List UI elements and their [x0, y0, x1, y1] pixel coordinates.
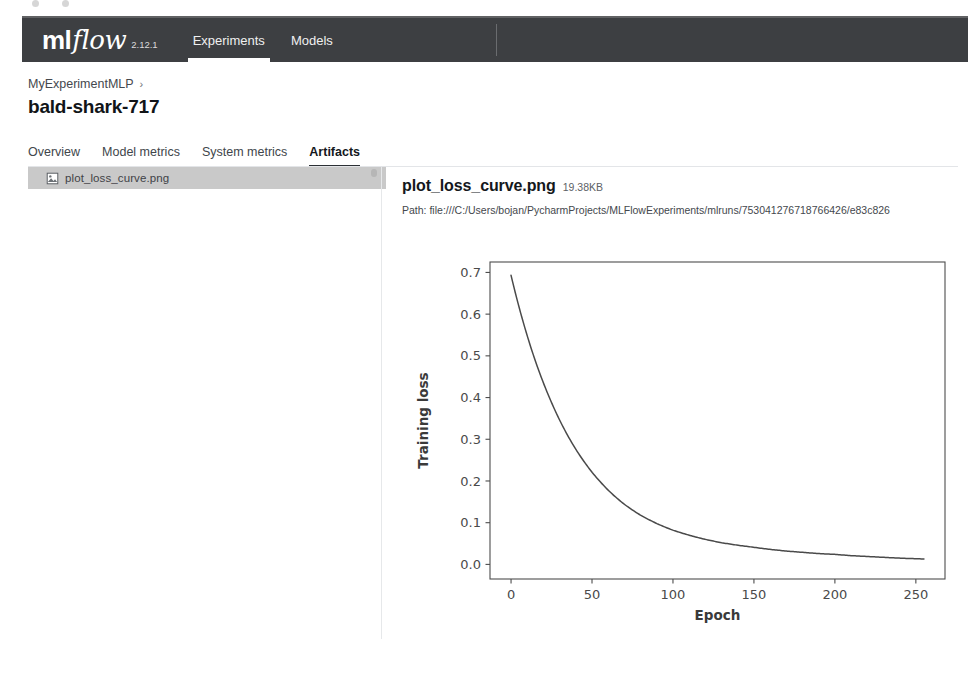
y-axis-tick-label: 0.3	[460, 432, 481, 447]
tab-system-metrics[interactable]: System metrics	[202, 145, 300, 167]
image-file-icon	[46, 172, 59, 185]
x-axis-tick-label: 200	[822, 587, 847, 602]
nav-link-experiments[interactable]: Experiments	[180, 18, 278, 62]
y-axis-title: Training loss	[415, 372, 431, 468]
preview-path-label: Path:	[402, 204, 427, 216]
x-axis-tick-label: 50	[584, 587, 601, 602]
logo-ml-text: ml	[42, 18, 71, 62]
tab-overview-label: Overview	[28, 145, 80, 159]
list-item[interactable]: plot_loss_curve.png	[28, 167, 386, 189]
nav-link-models[interactable]: Models	[278, 18, 346, 62]
y-axis-tick-label: 0.2	[460, 474, 481, 489]
y-axis-tick-label: 0.5	[460, 348, 481, 363]
y-axis-tick-label: 0.7	[460, 265, 481, 280]
list-item-label: plot_loss_curve.png	[65, 172, 169, 184]
x-axis-tick-label: 0	[507, 587, 515, 602]
x-axis-tick-label: 250	[903, 587, 928, 602]
navbar-links: Experiments Models	[180, 18, 346, 62]
tab-model-metrics[interactable]: Model metrics	[102, 145, 193, 167]
nav-link-models-label: Models	[291, 33, 333, 48]
logo-flow-text: flow	[72, 18, 126, 62]
x-axis-tick-label: 100	[661, 587, 686, 602]
preview-header: plot_loss_curve.png 19.38KB	[402, 177, 603, 195]
version-label: 2.12.1	[131, 39, 157, 50]
pane-divider	[381, 167, 382, 639]
training-loss-line-chart: 0.00.10.20.30.40.50.60.7050100150200250E…	[402, 255, 958, 623]
navbar-spacer	[497, 18, 968, 62]
window-dot-right	[62, 0, 69, 7]
tab-bar: Overview Model metrics System metrics Ar…	[28, 145, 958, 167]
tab-system-metrics-label: System metrics	[202, 145, 287, 159]
y-axis-tick-label: 0.4	[460, 390, 481, 405]
top-navbar: ml flow 2.12.1 Experiments Models	[22, 18, 968, 62]
plot-frame	[490, 262, 945, 579]
preview-path-value: file:///C:/Users/bojan/PycharmProjects/M…	[429, 204, 890, 216]
breadcrumb-parent-link[interactable]: MyExperimentMLP	[28, 77, 134, 91]
tab-overview[interactable]: Overview	[28, 145, 93, 167]
x-axis-title: Epoch	[695, 607, 741, 623]
x-axis-tick-label: 150	[742, 587, 767, 602]
series-line-training-loss	[511, 275, 924, 559]
nav-link-experiments-label: Experiments	[193, 33, 265, 48]
y-axis-tick-label: 0.6	[460, 307, 481, 322]
preview-filename: plot_loss_curve.png	[402, 177, 556, 195]
preview-path: Path: file:///C:/Users/bojan/PycharmProj…	[402, 204, 890, 216]
artifact-browser: plot_loss_curve.png plot_loss_curve.png …	[28, 167, 958, 639]
breadcrumb: MyExperimentMLP ›	[28, 77, 143, 91]
mlflow-logo[interactable]: ml flow 2.12.1	[22, 18, 172, 62]
y-axis-tick-label: 0.0	[460, 557, 481, 572]
y-axis-tick-label: 0.1	[460, 515, 481, 530]
loss-curve-chart: 0.00.10.20.30.40.50.60.7050100150200250E…	[402, 255, 958, 623]
breadcrumb-chevron-icon: ›	[140, 78, 144, 90]
page-title: bald-shark-717	[28, 96, 159, 118]
window-dot-left	[32, 0, 39, 7]
file-tree-scrollbar[interactable]	[371, 169, 377, 177]
artifact-preview: plot_loss_curve.png 19.38KB Path: file:/…	[402, 167, 958, 639]
preview-filesize: 19.38KB	[563, 181, 603, 193]
tab-model-metrics-label: Model metrics	[102, 145, 180, 159]
tab-artifacts-label: Artifacts	[309, 145, 360, 159]
artifact-file-tree: plot_loss_curve.png	[28, 167, 380, 639]
tab-artifacts[interactable]: Artifacts	[309, 145, 373, 167]
